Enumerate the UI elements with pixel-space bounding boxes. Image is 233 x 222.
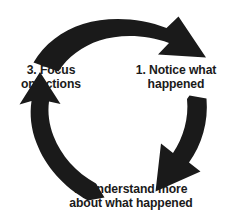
right-arrow-icon <box>156 96 207 192</box>
step-1-label-line1: 1. Notice what <box>133 63 219 77</box>
step-3-label: 3. Focus on actions <box>10 63 92 92</box>
step-3-label-line2: on actions <box>10 77 92 91</box>
step-1-label: 1. Notice what happened <box>133 63 219 92</box>
cycle-diagram: 1. Notice what happened 3. Focus on acti… <box>0 0 233 222</box>
step-2-label-line1: 2. Understand more <box>50 182 212 196</box>
step-3-label-line1: 3. Focus <box>10 63 92 77</box>
step-2-label-line2: about what happened <box>50 196 212 210</box>
step-2-label: 2. Understand more about what happened <box>50 182 212 211</box>
step-1-label-line2: happened <box>133 77 219 91</box>
